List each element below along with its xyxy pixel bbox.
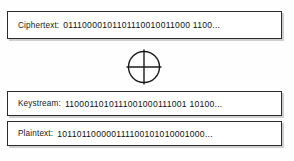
keystream-bits: 1100011010111001000111001 10100... [61, 99, 223, 109]
plaintext-bits: 101101100000111100101010001000... [53, 129, 213, 139]
ciphertext-box: Ciphertext: 01110000101101110010011000 1… [7, 11, 282, 39]
ciphertext-label: Ciphertext: [8, 21, 59, 30]
ciphertext-bits: 01110000101101110010011000 1100... [59, 20, 220, 30]
plaintext-label: Plaintext: [8, 129, 53, 138]
keystream-box: Keystream: 1100011010111001000111001 101… [7, 91, 282, 116]
xor-operator-icon [125, 48, 163, 86]
plaintext-box: Plaintext: 10110110000011110010101000100… [7, 121, 282, 146]
keystream-label: Keystream: [8, 99, 61, 108]
xor-stream-cipher-diagram: Ciphertext: 01110000101101110010011000 1… [0, 0, 294, 161]
